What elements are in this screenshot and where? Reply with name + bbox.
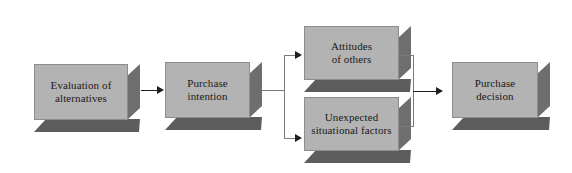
node-label: Unexpected situational factors (307, 111, 395, 137)
box-front-face: Attitudes of others (304, 26, 399, 80)
box-bottom-face (34, 119, 140, 132)
node-label: Purchase intention (183, 77, 232, 103)
node-label: Purchase decision (471, 77, 520, 103)
edge-evaluation-to-intention-line (141, 90, 158, 91)
box-right-face (398, 26, 411, 80)
edge-unexpected-to-merge-line (399, 126, 414, 127)
edge-merge-to-decision-arrowhead (436, 87, 443, 95)
node-purchase-intention: Purchase intention (165, 62, 262, 130)
node-label: Attitudes of others (327, 40, 376, 66)
box-front-face: Purchase decision (452, 62, 538, 118)
node-label: Evaluation of alternatives (47, 79, 116, 105)
box-front-face: Purchase intention (165, 62, 250, 118)
box-right-face (249, 62, 262, 118)
box-front-face: Evaluation of alternatives (34, 64, 128, 120)
node-unexpected-situational-factors: Unexpected situational factors (304, 97, 411, 163)
box-bottom-face (452, 117, 550, 130)
edge-intention-split-riser (284, 55, 285, 139)
edge-intention-to-unexpected-arrowhead (295, 134, 302, 142)
edge-attitudes-to-merge-line (399, 55, 414, 56)
box-bottom-face (165, 117, 262, 130)
edge-merge-to-decision-line (413, 91, 437, 92)
box-right-face (537, 62, 550, 118)
box-front-face: Unexpected situational factors (304, 97, 399, 151)
box-bottom-face (304, 79, 411, 92)
box-bottom-face (304, 150, 411, 163)
node-attitudes-of-others: Attitudes of others (304, 26, 411, 92)
node-purchase-decision: Purchase decision (452, 62, 550, 130)
box-right-face (398, 97, 411, 151)
edge-evaluation-to-intention-arrowhead (157, 86, 164, 94)
diagram-canvas: Evaluation of alternatives Purchase inte… (0, 0, 572, 173)
box-right-face (127, 64, 140, 120)
node-evaluation-of-alternatives: Evaluation of alternatives (34, 64, 140, 132)
edge-intention-to-attitudes-arrowhead (295, 51, 302, 59)
edge-intention-split-stem (262, 90, 285, 91)
